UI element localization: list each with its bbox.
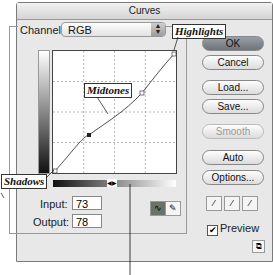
midtones-leader-line [95,95,115,117]
black-eyedropper-icon[interactable]: ⁄ [206,196,222,211]
preview-checkbox[interactable]: ✔ [207,225,218,236]
input-label: Input: [40,198,68,210]
highlights-leader-line [160,36,180,56]
save-button[interactable]: Save... [202,99,264,114]
input-field[interactable]: 73 [72,196,102,210]
output-gradient-bar [38,50,50,174]
side-tick-mark [0,192,6,200]
input-gradient-bar[interactable]: ◀▶ [53,180,176,187]
channel-label: Channel: [18,24,66,36]
expand-icon[interactable]: ⧉ [252,240,265,253]
preview-label: Preview [220,222,259,234]
auto-button[interactable]: Auto [202,150,264,165]
window-title: Curves [17,3,272,20]
cancel-button[interactable]: Cancel [202,55,264,70]
options-button[interactable]: Options... [202,170,264,185]
highlights-callout: Highlights [172,24,226,39]
gradient-toggle-icon[interactable]: ◀▶ [107,179,117,187]
gradient-pointer-line [128,184,132,275]
output-field[interactable]: 78 [72,214,102,228]
gray-eyedropper-icon[interactable]: ⁄ [224,196,240,211]
pencil-icon[interactable]: ✎ [165,201,181,216]
channel-select[interactable]: RGB ▲▼ [61,22,166,37]
shadows-callout: Shadows [1,174,47,189]
load-button[interactable]: Load... [202,80,264,95]
channel-value: RGB [68,24,92,36]
curve-icon[interactable]: ∿ [150,201,166,216]
white-eyedropper-icon[interactable]: ⁄ [242,196,258,211]
shadows-leader-line [44,168,56,180]
output-label: Output: [33,216,69,228]
select-arrows-icon: ▲▼ [151,23,165,36]
smooth-button[interactable]: Smooth [202,124,264,139]
